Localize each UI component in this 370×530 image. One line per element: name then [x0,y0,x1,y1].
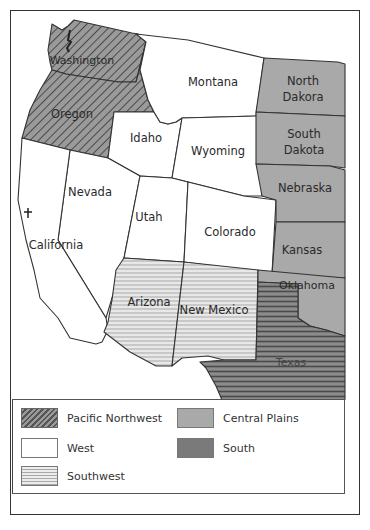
state-arizona [104,258,184,366]
label-idaho: Idaho [130,131,162,145]
label-utah: Utah [135,210,162,224]
legend-label: Southwest [67,470,125,483]
label-california: California [29,238,84,252]
legend-swatch-south [177,438,214,458]
label-colorado: Colorado [204,225,255,239]
label-new-mexico: New Mexico [180,303,249,317]
label-texas: Texas [275,356,307,369]
label-nevada: Nevada [68,185,112,199]
label-oklahoma: Oklahoma [279,279,335,292]
label-north-dakota-line2: Dakora [283,90,324,104]
legend-label: Pacific Northwest [67,412,162,425]
label-arizona: Arizona [127,295,170,309]
label-wyoming: Wyoming [191,144,245,158]
legend-swatch-pacific-northwest [21,408,58,428]
legend-label: West [67,442,94,455]
label-montana: Montana [188,75,238,89]
legend-item-west: West [21,438,94,458]
label-south-dakota-line2: Dakota [284,143,325,157]
legend-item-central-plains: Central Plains [177,408,299,428]
legend-swatch-southwest [21,466,58,486]
legend-swatch-west [21,438,58,458]
label-kansas: Kansas [282,243,323,257]
legend-item-pacific-northwest: Pacific Northwest [21,408,162,428]
legend-label: South [223,442,255,455]
regions-map: Washington Oregon Idaho Montana Wyoming … [0,0,370,400]
label-south-dakota-line1: South [287,127,320,141]
label-oregon: Oregon [51,107,93,121]
legend-label: Central Plains [223,412,299,425]
label-north-dakota-line1: North [287,74,319,88]
label-nebraska: Nebraska [278,181,332,195]
legend-item-southwest: Southwest [21,466,125,486]
label-washington: Washington [50,54,115,67]
legend-swatch-central-plains [177,408,214,428]
map-legend: Pacific Northwest West Southwest Central… [12,399,345,494]
legend-item-south: South [177,438,255,458]
